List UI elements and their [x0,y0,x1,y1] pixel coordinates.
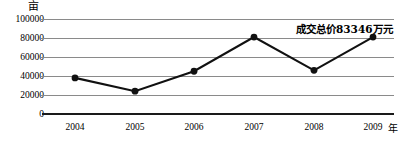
line-chart: 亩 100000 80000 60000 40000 20000 0 成交总价8… [0,0,405,142]
x-tick-2007: 2007 [245,122,264,133]
data-point-2004 [72,75,79,82]
x-tick-2009: 2009 [364,122,383,133]
x-axis-unit-label: 年 [388,123,398,134]
y-axis-tick-labels: 100000 80000 60000 40000 20000 0 [0,0,44,142]
data-point-2008 [311,67,318,74]
data-point-2007 [251,34,258,41]
x-tick-2004: 2004 [66,122,85,133]
data-point-2005 [132,88,139,95]
data-point-2006 [191,68,198,75]
x-tick-2005: 2005 [126,122,145,133]
y-tick-100000: 100000 [16,14,45,24]
annotation-total-price: 成交总价83346万元 [296,23,393,35]
x-tick-2008: 2008 [305,122,324,133]
x-tick-2006: 2006 [185,122,204,133]
